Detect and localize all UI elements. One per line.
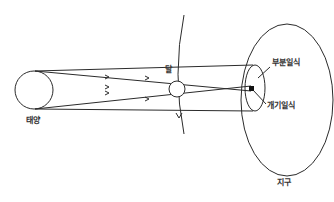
moon-circle (169, 81, 185, 97)
arrow-icon (145, 97, 149, 101)
sun-circle (15, 71, 53, 109)
sun-label: 태양 (26, 117, 40, 125)
total-eclipse-label: 개기일식 (267, 102, 295, 110)
umbra-dot (249, 86, 254, 91)
ray-outer-top (35, 65, 253, 71)
earth-ellipse (241, 24, 333, 176)
earth-label: 지구 (277, 179, 291, 187)
ray-cross-down (35, 71, 251, 91)
moon-orbit-arc (178, 15, 184, 134)
arrow-icon (105, 91, 109, 95)
ray-outer-bottom (35, 109, 253, 111)
arrow-icon (145, 76, 149, 80)
penumbra-ellipse (245, 65, 265, 111)
arrow-icon (105, 75, 109, 79)
partial-eclipse-label: 부분일식 (272, 59, 300, 67)
moon-label: 달 (165, 66, 172, 74)
ray-cross-up (35, 86, 251, 109)
arrow-icon (105, 85, 109, 89)
solar-eclipse-diagram: 태양 달 부분일식 개기일식 지구 (0, 0, 334, 202)
